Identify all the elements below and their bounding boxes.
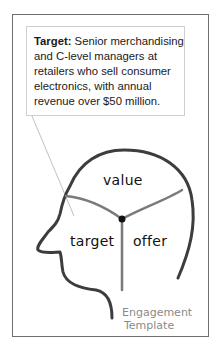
- section-label-offer: offer: [133, 233, 167, 249]
- divider-left: [66, 196, 122, 219]
- section-label-target: target: [70, 233, 114, 249]
- callout-pointer-line: [32, 116, 74, 216]
- center-dot-icon: [119, 216, 126, 223]
- section-label-value: value: [103, 172, 143, 188]
- caption-line-2: Template: [124, 320, 174, 332]
- divider-right: [122, 190, 182, 219]
- caption-line-1: Engagement: [122, 307, 192, 319]
